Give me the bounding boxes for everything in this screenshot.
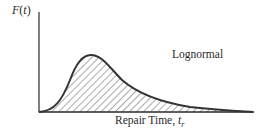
x-axis-label: Repair Time, tr (115, 114, 184, 129)
lognormal-repair-time-diagram: F(t) Lognormal Repair Time, tr (0, 0, 269, 133)
distribution-label: Lognormal (172, 48, 223, 60)
y-axis-label: F(t) (12, 3, 31, 18)
